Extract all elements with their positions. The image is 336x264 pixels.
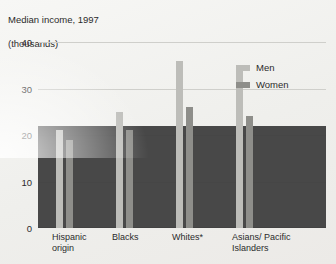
chart-root: Median income, 1997 (thousands) 40 30 20… (0, 0, 336, 264)
chart-title-line-1: Median income, 1997 (8, 14, 99, 25)
legend-item-men: Men (236, 62, 289, 73)
bar-women-asians-pacific-islanders (246, 116, 253, 228)
bar-women-blacks (126, 130, 133, 228)
legend-label-women: Women (256, 79, 289, 90)
bar-women-whites (186, 107, 193, 228)
legend-label-men: Men (256, 62, 274, 73)
legend-item-women: Women (236, 79, 289, 90)
ytick-label-40: 40 (21, 37, 32, 48)
bar-men-hispanic-origin (56, 130, 63, 228)
bar-women-hispanic-origin (66, 140, 73, 228)
bar-men-blacks (116, 112, 123, 228)
ytick-label-30: 30 (21, 83, 32, 94)
chart-legend: Men Women (236, 62, 289, 96)
category-label-blacks: Blacks (112, 232, 139, 243)
bar-men-whites (176, 61, 183, 228)
category-label-hispanic-origin: Hispanic origin (52, 232, 87, 254)
gridline-40 (38, 42, 326, 43)
ytick-label-0: 0 (27, 223, 32, 234)
ytick-label-10: 10 (21, 176, 32, 187)
category-label-asians-pacific-islanders: Asians/ Pacific Islanders (232, 232, 291, 254)
category-label-whites: Whites* (172, 232, 203, 243)
legend-swatch-men-icon (236, 65, 250, 71)
ytick-label-20: 20 (21, 130, 32, 141)
legend-swatch-women-icon (236, 82, 250, 88)
